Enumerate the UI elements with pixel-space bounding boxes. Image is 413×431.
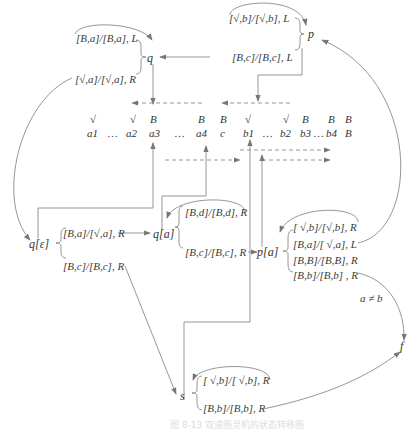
tape-t1-1: √ (130, 113, 136, 125)
tape-t2-10: b3 (300, 127, 311, 139)
state-diagram: q p q[ε] q[a] p[a] s f [B,a]/[B,a], L [√… (0, 0, 413, 431)
transition-q-out: [√,a]/[√,a], R (75, 73, 136, 85)
tape-t2-1: … (107, 127, 118, 139)
tape-t2-5: a4 (196, 127, 207, 139)
tape-t1-5: √ (245, 113, 251, 125)
tape-t2-9: b2 (280, 127, 291, 139)
tape-t1-7: B (302, 113, 309, 125)
transition-p-loop: [√,b]/[√,b], L (229, 12, 289, 24)
transition-pa-to-p: [B,a]/[ √,a], L (293, 238, 357, 250)
condition-label: a ≠ b (360, 292, 383, 304)
tape-t2-0: a1 (87, 127, 98, 139)
transition-qa-to-pa: [B,c]/[B,c], R (185, 246, 246, 258)
transition-qa-loop: [B,d]/[B,d], R (185, 206, 247, 218)
tape-t2-7: b1 (243, 127, 254, 139)
state-p: p (308, 28, 314, 40)
transition-qeps-to-s: [B,c]/[B,c], R (63, 260, 124, 272)
tape-t1-6: √ (283, 113, 289, 125)
tape-t2-3: a3 (149, 127, 160, 139)
tape-t2-12: b4 (326, 127, 337, 139)
tape-t2-6: c (220, 127, 225, 139)
transition-q-loop: [B,a]/[B,a], L (76, 32, 138, 44)
state-q-a: q[a] (153, 228, 174, 240)
figure-caption: 图 8-13 双道图灵机的状态转移图 (170, 419, 304, 431)
transition-pa-BB: [B,B]/[B,B], R (293, 254, 358, 266)
transition-p-out: [B,c]/[B,c], L (232, 51, 293, 63)
state-q-epsilon: q[ε] (29, 238, 49, 250)
transition-s-to-f: [B,b]/[B,b], R (203, 402, 265, 414)
transition-s-loop: [ √,b]/[ √,b], R (203, 374, 269, 386)
tape-t1-9: B (345, 113, 352, 125)
state-p-a: p[a] (257, 246, 278, 258)
state-q: q (147, 52, 153, 64)
transition-pa-to-f: [B,b]/[B,b] , R (293, 269, 358, 281)
tape-t1-4: B (220, 113, 227, 125)
tape-t2-2: a2 (126, 127, 137, 139)
tape-t2-8: … (262, 127, 273, 139)
transition-qeps-to-qa: [B,a]/[√,a], R (63, 227, 125, 239)
state-s: s (180, 390, 185, 402)
tape-t2-11: … (313, 127, 324, 139)
transition-pa-loop: [ √,b]/[√,b], R (293, 221, 357, 233)
tape-t2-4: … (174, 127, 185, 139)
tape-t2-13: B (345, 127, 352, 139)
tape-t1-3: B (198, 113, 205, 125)
tape-t1-2: B (150, 113, 157, 125)
state-f: f (400, 340, 403, 352)
tape-t1-8: B (328, 113, 335, 125)
tape-t1-0: √ (90, 113, 96, 125)
